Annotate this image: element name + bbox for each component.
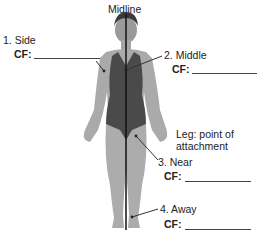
cf-label-near: CF: bbox=[164, 170, 182, 182]
cf-blank-side[interactable] bbox=[34, 58, 100, 59]
cf-blank-near[interactable] bbox=[185, 181, 251, 182]
label-near: 3. Near bbox=[158, 156, 192, 168]
label-middle: 2. Middle bbox=[164, 49, 207, 61]
cf-label-side: CF: bbox=[14, 48, 32, 60]
cf-label-away: CF: bbox=[164, 218, 182, 230]
annotation-line1: Leg: point of bbox=[176, 128, 234, 140]
label-side: 1. Side bbox=[3, 34, 36, 46]
midline-label: Midline bbox=[108, 3, 141, 15]
cf-blank-away[interactable] bbox=[185, 229, 251, 230]
label-away: 4. Away bbox=[160, 203, 197, 215]
cf-blank-middle[interactable] bbox=[192, 73, 257, 74]
cf-label-middle: CF: bbox=[172, 63, 190, 75]
annotation-line2: attachment bbox=[176, 140, 228, 152]
human-figure-illustration bbox=[0, 0, 263, 240]
